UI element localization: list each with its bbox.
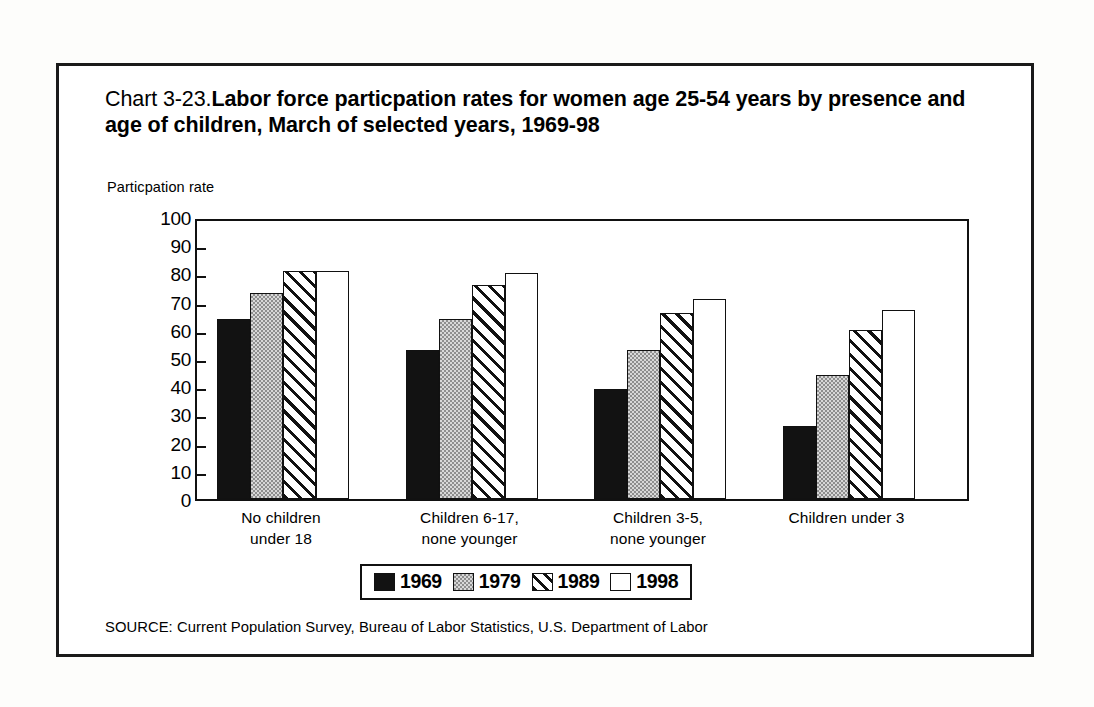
bar-1998-group-2	[505, 273, 538, 499]
legend-label: 1989	[558, 570, 600, 593]
bar-1989-group-4	[849, 330, 882, 499]
legend-entry-1998: 1998	[610, 570, 678, 593]
bar-1969-group-2	[406, 350, 439, 499]
y-axis-tick-labels: 0102030405060708090100	[141, 219, 191, 501]
chart-title-prefix: Chart 3-23.	[105, 87, 211, 111]
plot-area	[195, 219, 969, 501]
x-category-label-line: none younger	[370, 529, 570, 550]
x-category-label-line: No children	[181, 508, 381, 529]
y-tick-mark	[197, 417, 206, 419]
x-category-label-line: Children 6-17,	[370, 508, 570, 529]
y-tick-label: 30	[145, 405, 191, 427]
bar-1998-group-3	[693, 299, 726, 499]
y-tick-mark	[197, 333, 206, 335]
y-tick-mark	[197, 248, 206, 250]
bar-1979-group-3	[627, 350, 660, 499]
solid-black-swatch	[374, 573, 395, 591]
chart-title: Chart 3-23.Labor force particpation rate…	[105, 86, 995, 138]
y-tick-label: 40	[145, 377, 191, 399]
source-note: SOURCE: Current Population Survey, Burea…	[105, 619, 708, 635]
y-tick-label: 10	[145, 462, 191, 484]
gray-stipple-swatch	[453, 573, 474, 591]
x-category-label-line: under 18	[181, 529, 381, 550]
diagonal-hatch-swatch	[532, 573, 553, 591]
bars-layer	[197, 221, 967, 499]
legend-entry-1969: 1969	[374, 570, 442, 593]
x-category-label: Children under 3	[747, 508, 947, 529]
y-tick-label: 70	[145, 293, 191, 315]
bar-1969-group-3	[594, 389, 627, 499]
x-category-label-line: Children 3-5,	[558, 508, 758, 529]
y-tick-mark	[197, 276, 206, 278]
bar-1989-group-3	[660, 313, 693, 499]
y-tick-label: 60	[145, 321, 191, 343]
bar-1979-group-4	[816, 375, 849, 499]
y-tick-label: 20	[145, 434, 191, 456]
page-background: Chart 3-23.Labor force particpation rate…	[0, 0, 1094, 707]
bar-1979-group-1	[250, 293, 283, 499]
chart-legend: 1969197919891998	[360, 564, 692, 600]
bar-1989-group-1	[283, 271, 316, 499]
x-category-label: Children 3-5,none younger	[558, 508, 758, 549]
y-tick-mark	[197, 361, 206, 363]
bar-1979-group-2	[439, 319, 472, 499]
figure-frame: Chart 3-23.Labor force particpation rate…	[56, 63, 1034, 657]
legend-label: 1979	[479, 570, 521, 593]
legend-entry-1989: 1989	[532, 570, 600, 593]
y-tick-mark	[197, 474, 206, 476]
y-tick-mark	[197, 389, 206, 391]
x-category-label-line: Children under 3	[747, 508, 947, 529]
bar-1998-group-1	[316, 271, 349, 499]
bar-1969-group-1	[217, 319, 250, 499]
chart-title-main: Labor force particpation rates for women…	[105, 87, 965, 137]
y-tick-mark	[197, 446, 206, 448]
y-tick-label: 100	[145, 208, 191, 230]
legend-label: 1998	[636, 570, 678, 593]
bar-1969-group-4	[783, 426, 816, 499]
x-category-label: Children 6-17,none younger	[370, 508, 570, 549]
bar-1989-group-2	[472, 285, 505, 499]
x-category-label: No childrenunder 18	[181, 508, 381, 549]
legend-label: 1969	[400, 570, 442, 593]
bar-1998-group-4	[882, 310, 915, 499]
x-axis-category-labels: No childrenunder 18Children 6-17,none yo…	[195, 508, 1023, 558]
plot-wrapper: 0102030405060708090100	[141, 219, 969, 501]
y-tick-label: 50	[145, 349, 191, 371]
y-tick-label: 80	[145, 264, 191, 286]
y-tick-label: 90	[145, 236, 191, 258]
white-empty-swatch	[610, 573, 631, 591]
y-axis-label: Particpation rate	[107, 179, 214, 195]
x-category-label-line: none younger	[558, 529, 758, 550]
y-tick-mark	[197, 305, 206, 307]
legend-entry-1979: 1979	[453, 570, 521, 593]
